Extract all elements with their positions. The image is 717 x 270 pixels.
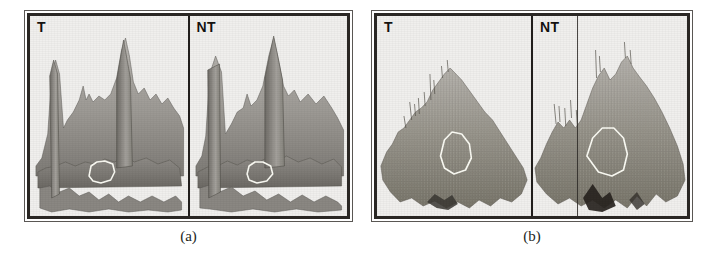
subpanel-label-a-T: T — [37, 19, 46, 35]
subpanel-a-T: T — [30, 16, 188, 216]
figure-root: T NT — [0, 0, 717, 270]
panel-b: T — [371, 10, 693, 222]
panel-a-subpanels: T NT — [30, 16, 347, 216]
subpanel-label-b-NT: NT — [540, 19, 559, 35]
surface-plot-a-NT — [190, 16, 348, 216]
subpanel-b-NT: NT — [531, 16, 687, 216]
subpanel-a-NT: NT — [188, 16, 348, 216]
surface-a-NT-main-peak — [264, 36, 284, 168]
subpanel-label-a-NT: NT — [197, 19, 216, 35]
subpanel-b-T: T — [377, 16, 531, 216]
subpanel-label-b-T: T — [384, 19, 393, 35]
panel-a: T NT — [24, 10, 353, 222]
surface-plot-b-NT — [533, 16, 687, 216]
surface-a-NT-left-column — [207, 64, 220, 198]
caption-a: (a) — [24, 228, 353, 245]
surface-a-NT-front-apron — [199, 185, 341, 212]
panel-a-inner-border: T NT — [27, 13, 350, 219]
caption-b: (b) — [371, 228, 693, 245]
surface-plot-a-T — [30, 16, 188, 216]
surface-b-T-noise-overlay — [381, 68, 527, 208]
surface-b-NT-noise-overlay — [535, 56, 685, 208]
surface-plot-b-T — [377, 16, 531, 216]
scan-artifact-line-b-NT — [577, 16, 578, 216]
panel-b-subpanels: T — [377, 16, 687, 216]
surface-a-T-front-apron — [40, 186, 182, 212]
panel-b-inner-border: T — [374, 13, 690, 219]
